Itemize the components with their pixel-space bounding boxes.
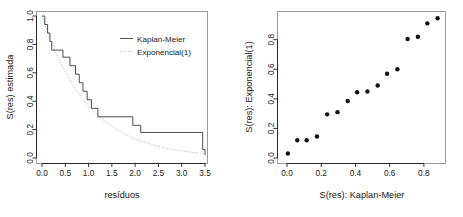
left-y-axis-title: S(res) estimada	[5, 54, 15, 120]
y-tick-label: 0.6	[266, 63, 276, 75]
x-tick-label: 0.0	[36, 168, 48, 178]
x-tick-label: 3.0	[176, 168, 188, 178]
legend-label-kaplan-meier: Kaplan-Meier	[137, 35, 185, 44]
scatter-point	[425, 21, 429, 25]
y-tick-label: 0.4	[25, 95, 35, 107]
x-tick-label: 0.0	[281, 168, 293, 178]
scatter-point	[416, 35, 420, 39]
scatter-point	[315, 134, 319, 138]
x-tick-label: 1.5	[106, 168, 118, 178]
left-y-axis: 0.00.20.40.60.81.0	[25, 10, 37, 164]
scatter-point	[346, 99, 350, 103]
y-tick-label: 0.4	[266, 93, 276, 105]
scatter-point	[395, 67, 399, 71]
right-plot-frame	[278, 12, 446, 164]
left-x-axis-title: resíduos	[104, 190, 140, 200]
scatter-point	[435, 16, 439, 20]
right-panel-qq-scatter: 0.00.20.40.60.8 0.00.20.40.60.8 S(res): …	[244, 12, 446, 201]
y-tick-label: 0.8	[266, 34, 276, 46]
x-tick-label: 2.0	[129, 168, 141, 178]
scatter-point	[325, 112, 329, 116]
x-tick-label: 0.2	[315, 168, 327, 178]
scatter-point	[355, 90, 359, 94]
scatter-point	[405, 37, 409, 41]
figure-canvas: 0.00.51.01.52.02.53.03.5 0.00.20.40.60.8…	[0, 0, 463, 217]
x-tick-label: 3.5	[199, 168, 211, 178]
x-tick-label: 0.4	[350, 168, 362, 178]
y-tick-label: 0.2	[266, 122, 276, 134]
right-y-axis-title: S(res): Exponencial(1)	[244, 41, 254, 132]
scatter-point	[365, 89, 369, 93]
x-tick-label: 0.5	[60, 168, 72, 178]
scatter-point	[295, 138, 299, 142]
x-tick-label: 2.5	[153, 168, 165, 178]
left-panel-km-vs-exponential: 0.00.51.01.52.02.53.03.5 0.00.20.40.60.8…	[5, 10, 211, 200]
y-tick-label: 0.6	[25, 67, 35, 79]
right-y-axis: 0.00.20.40.60.8	[266, 34, 278, 164]
y-tick-label: 0.2	[25, 123, 35, 135]
scatter-point	[335, 110, 339, 114]
y-tick-label: 0.0	[25, 152, 35, 164]
scatter-point	[375, 83, 379, 87]
x-tick-label: 0.8	[418, 168, 430, 178]
scatter-point	[286, 151, 290, 155]
left-legend: Kaplan-Meier Exponencial(1)	[120, 35, 191, 57]
survival-diagnostic-figure: 0.00.51.01.52.02.53.03.5 0.00.20.40.60.8…	[0, 0, 463, 217]
right-x-axis: 0.00.20.40.60.8	[281, 164, 430, 179]
right-x-axis-title: S(res): Kaplan-Meier	[320, 190, 405, 200]
scatter-points	[286, 16, 440, 156]
x-tick-label: 1.0	[83, 168, 95, 178]
left-x-axis: 0.00.51.01.52.02.53.03.5	[36, 164, 211, 179]
scatter-point	[304, 138, 308, 142]
legend-label-exponencial: Exponencial(1)	[137, 48, 191, 57]
y-tick-label: 1.0	[25, 10, 35, 22]
scatter-point	[385, 71, 389, 75]
y-tick-label: 0.8	[25, 38, 35, 50]
x-tick-label: 0.6	[384, 168, 396, 178]
y-tick-label: 0.0	[266, 152, 276, 164]
